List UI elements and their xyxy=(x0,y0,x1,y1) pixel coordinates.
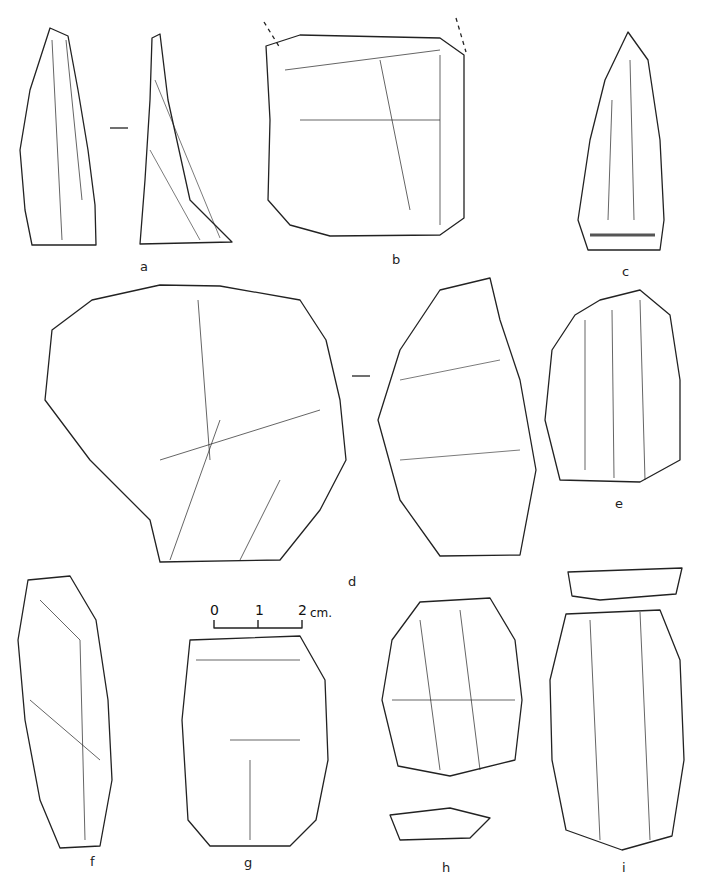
label-b: b xyxy=(392,253,400,266)
label-a: a xyxy=(140,260,148,273)
scale-two: 2 xyxy=(298,603,307,617)
label-i: i xyxy=(622,861,626,874)
scale-zero: 0 xyxy=(210,603,219,617)
label-c: c xyxy=(622,265,629,278)
label-g: g xyxy=(244,856,252,869)
scale-bar: 0 1 2 cm. xyxy=(210,603,320,629)
artifact-f xyxy=(18,576,112,848)
scale-unit: cm. xyxy=(310,606,332,620)
scale-one: 1 xyxy=(255,603,264,617)
artifact-c xyxy=(578,32,664,250)
artifact-e xyxy=(545,290,680,482)
artifact-a xyxy=(20,28,232,245)
label-e: e xyxy=(615,497,623,510)
label-f: f xyxy=(90,855,95,868)
artifact-g xyxy=(182,636,328,846)
artifact-h xyxy=(382,598,522,840)
label-h: h xyxy=(442,861,450,874)
artifact-i xyxy=(550,568,684,850)
artifact-b xyxy=(264,18,466,236)
stone-tool-drawings xyxy=(0,0,704,893)
label-d: d xyxy=(348,575,356,588)
artifact-d xyxy=(45,278,536,562)
